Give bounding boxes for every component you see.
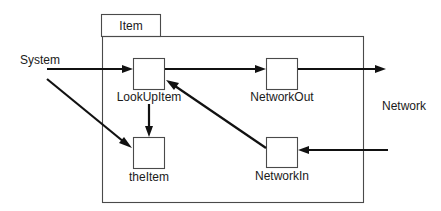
arrowhead-icon <box>375 65 386 73</box>
arrowhead-icon <box>298 146 309 154</box>
lookupitem-box <box>134 59 165 90</box>
dataflow-diagram: Item System Network LookUpItem NetworkOu… <box>0 0 441 211</box>
system-label: System <box>20 53 60 67</box>
networkout-label: NetworkOut <box>250 90 314 104</box>
theitem-label: theItem <box>129 170 169 184</box>
theitem-box <box>134 138 165 169</box>
network-label: Network <box>382 99 427 113</box>
arrowhead-icon <box>255 65 266 73</box>
arrowhead-icon <box>145 126 153 137</box>
node-theitem: theItem <box>129 138 169 185</box>
node-networkin: NetworkIn <box>255 138 309 184</box>
node-lookupitem: LookUpItem <box>117 59 182 105</box>
item-container-label: Item <box>119 19 142 33</box>
networkin-box <box>267 138 298 168</box>
networkout-box <box>267 59 298 90</box>
edge-networkout-to-network <box>298 65 386 73</box>
edge-lookupitem-to-theitem <box>145 104 153 137</box>
edge-network-to-networkin <box>298 146 388 154</box>
node-networkout: NetworkOut <box>250 59 314 105</box>
networkin-label: NetworkIn <box>255 169 309 183</box>
edge-lookupitem-to-networkout <box>165 65 266 73</box>
lookupitem-label: LookUpItem <box>117 90 182 104</box>
arrowhead-icon <box>122 65 133 73</box>
